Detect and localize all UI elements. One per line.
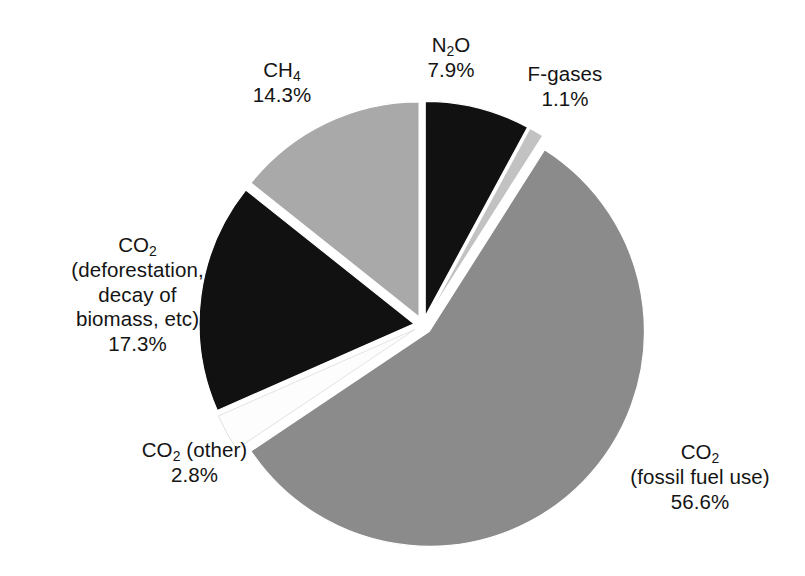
pie-chart: N2O 7.9% F-gases 1.1% CH4 14.3% CO2 (def…	[0, 0, 805, 576]
slice-label-co2-other-percent: 2.8%	[92, 463, 297, 488]
slice-label-co2-fossil-fuel-line2: (fossil fuel use)	[610, 465, 790, 490]
slice-label-co2-deforestation: CO2 (deforestation, decay of biomass, et…	[30, 233, 245, 357]
slice-label-f-gases: F-gases 1.1%	[500, 62, 630, 112]
subscript-2: 2	[447, 43, 455, 59]
slice-label-ch4-name: CH4	[222, 58, 342, 83]
slice-label-co2-fossil-fuel: CO2 (fossil fuel use) 56.6%	[610, 440, 790, 514]
slice-label-n2o: N2O 7.9%	[396, 33, 506, 83]
slice-label-co2-other-name: CO2 (other)	[92, 438, 297, 463]
slice-label-co2-fossil-fuel-percent: 56.6%	[610, 490, 790, 515]
slice-label-n2o-name: N2O	[396, 33, 506, 58]
slice-label-n2o-percent: 7.9%	[396, 58, 506, 83]
slice-label-co2-deforestation-line4: biomass, etc)	[30, 307, 245, 332]
subscript-2: 2	[149, 243, 157, 259]
slice-label-co2-deforestation-percent: 17.3%	[30, 332, 245, 357]
subscript-4: 4	[293, 68, 301, 84]
slice-label-ch4: CH4 14.3%	[222, 58, 342, 108]
slice-label-f-gases-name: F-gases	[500, 62, 630, 87]
subscript-2: 2	[712, 450, 720, 466]
slice-label-co2-other: CO2 (other) 2.8%	[92, 438, 297, 488]
subscript-2: 2	[173, 448, 181, 464]
slice-label-co2-deforestation-name: CO2	[30, 233, 245, 258]
slice-label-co2-deforestation-line3: decay of	[30, 283, 245, 308]
slice-label-ch4-percent: 14.3%	[222, 83, 342, 108]
slice-label-f-gases-percent: 1.1%	[500, 87, 630, 112]
slice-label-co2-deforestation-line2: (deforestation,	[30, 258, 245, 283]
slice-label-co2-fossil-fuel-name: CO2	[610, 440, 790, 465]
